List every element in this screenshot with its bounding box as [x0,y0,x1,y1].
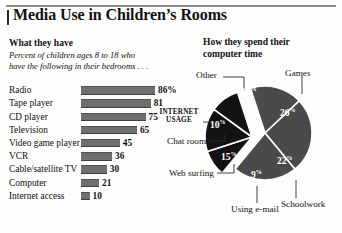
pie-value-other: 18% [241,87,257,97]
bar-value-label: 30 [110,163,119,175]
page-title: Media Use in Children’s Rooms [13,6,227,24]
bar-chart-panel: What they have Percent of children ages … [9,37,195,71]
bar-row-label: VCR [9,150,28,162]
pie-value-games: 26% [280,108,296,118]
bar-track [81,165,167,173]
bar-row: Cable/satellite TV30 [9,163,195,176]
infographic-page: Media Use in Children’s Rooms What they … [0,0,342,233]
bar-row: Computer21 [9,176,195,189]
bar-chart-subtitle: Percent of children ages 8 to 18 who hav… [9,50,195,71]
bar-row-label: Cable/satellite TV [9,163,77,175]
bar-fill [81,113,146,121]
bar-row-label: Video game player [9,137,80,149]
pie-label-internet-usage: INTERNET USAGE [151,108,207,125]
bar-row: Television65 [9,124,195,137]
pie-label-games: Games [285,68,311,78]
bar-fill [81,99,151,107]
bar-fill [81,139,120,147]
bar-value-label: 65 [140,124,149,136]
pie-value-schoolwork: 22% [277,156,293,166]
bar-row: VCR36 [9,150,195,163]
bar-track [81,86,167,94]
pie-label-other: Other [196,70,217,80]
bar-fill [81,126,137,134]
pie-value-using-email: 9% [251,170,262,180]
pie-slice-group [205,86,312,180]
bar-row: Internet access10 [9,190,195,203]
bar-row-label: Television [9,124,48,136]
bar-fill [81,192,90,200]
bar-row-label: Internet access [9,190,64,202]
internet-usage-line2: USAGE [166,116,192,124]
pie-label-web-surfing: Web surfing [169,168,214,178]
title-accent-mark [7,10,9,25]
bar-fill [81,86,155,94]
pie-chart-heading-line2: computer time [203,49,262,59]
bar-value-label: 21 [102,177,111,189]
pie-label-chat-rooms: Chat rooms [167,136,210,146]
pie-chart-graphic: Other Games Schoolwork Using e-mail Web … [195,60,342,233]
bar-row-label: CD player [9,111,48,123]
bar-fill [81,179,99,187]
bar-value-label: 45 [123,137,132,149]
pie-label-using-email: Using e-mail [231,204,279,214]
pie-chart-panel: How they spend their computer time [203,37,337,60]
pie-label-schoolwork: Schoolwork [281,199,325,209]
bar-row: Radio86% [9,84,195,97]
pie-chart-heading: How they spend their computer time [203,37,337,60]
bar-row-label: Tape player [9,97,53,109]
bar-row-label: Computer [9,177,47,189]
bar-track [81,179,167,187]
bar-fill [81,165,107,173]
bar-value-label: 86% [158,84,177,96]
bar-chart-subtitle-line1: Percent of children ages 8 to 18 who [9,50,135,60]
pie-value-web-surfing: 15% [221,152,237,162]
bar-track [81,126,167,134]
bar-chart-subtitle-line2: have the following in their bedrooms . .… [9,61,148,71]
bar-fill [81,152,112,160]
pie-value-chat-rooms: 10% [210,120,226,130]
bar-value-label: 36 [115,150,124,162]
bar-row-label: Radio [9,84,31,96]
internet-usage-line1: INTERNET [159,108,198,116]
pie-chart-heading-line1: How they spend their [203,37,290,47]
bar-value-label: 10 [93,190,102,202]
bar-chart-heading: What they have [9,37,195,49]
